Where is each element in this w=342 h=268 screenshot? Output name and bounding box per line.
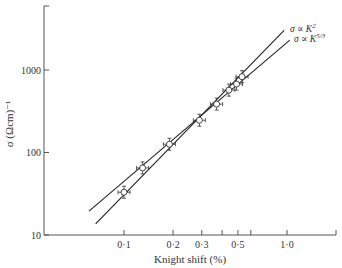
legend-k53: σ ∝ K5/3 — [294, 32, 326, 44]
y-tick-label: 10 — [31, 230, 41, 241]
open-circle-marker — [239, 74, 245, 80]
open-circle-marker — [234, 81, 240, 87]
tick-labels: 1010010000·10·20·30·51·0 — [21, 65, 294, 251]
fit-line-k53 — [89, 40, 290, 211]
y-tick-label: 1000 — [21, 65, 41, 76]
y-axis-title: σ (Ωcm)⁻¹ — [3, 101, 16, 148]
open-circle-marker — [166, 141, 172, 147]
data-point — [223, 84, 235, 96]
fit-lines — [89, 30, 290, 224]
x-axis-title: Knight shift (%) — [154, 253, 226, 266]
data-point — [163, 138, 175, 150]
data-point — [231, 78, 243, 90]
data-point — [236, 71, 248, 83]
open-circle-marker — [226, 87, 232, 93]
open-circle-marker — [121, 189, 127, 195]
chart: 1010010000·10·20·30·51·0 σ ∝ K2σ ∝ K5/3 … — [0, 0, 342, 268]
open-circle-marker — [140, 165, 146, 171]
data-point — [118, 186, 130, 198]
axes — [44, 6, 336, 235]
x-tick-label: 0·1 — [117, 239, 130, 250]
x-tick-label: 0·5 — [231, 239, 244, 250]
x-tick-label: 1·0 — [280, 239, 293, 250]
open-circle-marker — [214, 101, 220, 107]
data-point — [211, 98, 223, 110]
y-tick-label: 100 — [26, 147, 41, 158]
open-circle-marker — [196, 117, 202, 123]
data-point — [193, 114, 205, 126]
legend-k2: σ ∝ K2 — [290, 22, 316, 34]
x-tick-label: 0·2 — [166, 239, 179, 250]
legend: σ ∝ K2σ ∝ K5/3 — [290, 22, 326, 44]
x-tick-label: 0·3 — [195, 239, 208, 250]
